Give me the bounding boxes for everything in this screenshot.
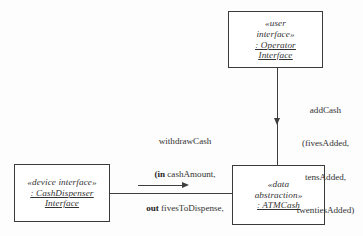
param-direction-out: out <box>146 203 159 213</box>
object-operator-interface[interactable]: «user interface» : OperatorInterface <box>228 11 323 68</box>
uml-communication-diagram: «user interface» : OperatorInterface «de… <box>0 0 363 236</box>
connector-operator-to-atmcash <box>277 68 278 165</box>
message-param-line-3: tensAdded, <box>288 172 363 183</box>
object-instance-name: : CashDispenserInterface <box>30 188 93 210</box>
param-name: fivesToDispense, <box>159 203 224 213</box>
param-direction-in: (in <box>154 169 165 179</box>
message-name: withdrawCash <box>120 136 250 147</box>
object-stereotype: «user interface» <box>256 18 294 40</box>
message-name: addCash <box>288 105 363 116</box>
object-instance-name-line1: : CashDispenser <box>30 188 93 199</box>
object-stereotype: «device interface» <box>27 177 96 188</box>
message-label-add-cash: addCash (fivesAdded, tensAdded, twenties… <box>288 83 363 236</box>
object-instance-name-line2: Interface <box>30 198 93 209</box>
message-label-withdraw-cash: withdrawCash (in cashAmount, out fivesTo… <box>120 114 250 236</box>
message-param-line-2: (fivesAdded, <box>288 138 363 149</box>
message-param-line-2: (in cashAmount, <box>120 169 250 180</box>
message-param-line-3: out fivesToDispense, <box>120 203 250 214</box>
object-instance-name-line1: : Operator <box>255 40 296 51</box>
message-param-line-4: twentiesAdded) <box>288 205 363 216</box>
arrowhead-addcash-icon <box>274 118 280 125</box>
object-cash-dispenser-interface[interactable]: «device interface» : CashDispenserInterf… <box>14 164 110 222</box>
object-instance-name-line2: Interface <box>255 50 296 61</box>
object-instance-name: : OperatorInterface <box>255 40 296 62</box>
param-name: cashAmount, <box>165 169 216 179</box>
